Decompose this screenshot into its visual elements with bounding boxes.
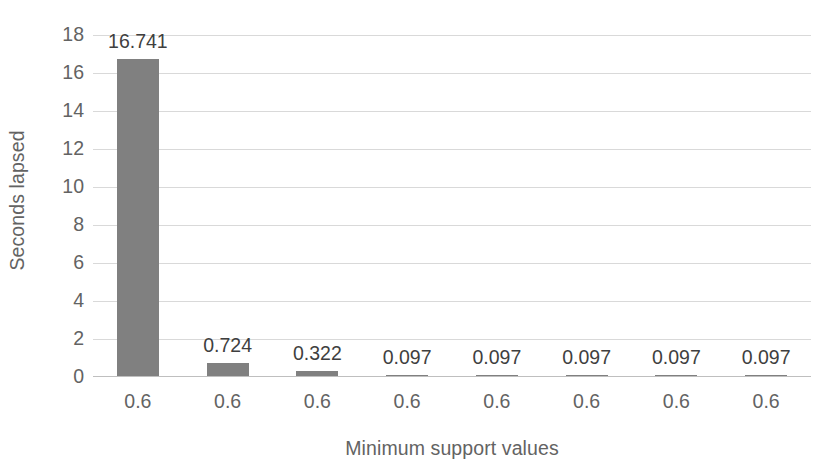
y-axis-title: Seconds lapsed <box>0 0 34 400</box>
gridline <box>93 301 811 302</box>
bar-value-label: 0.097 <box>562 347 611 367</box>
bar-value-label: 0.097 <box>652 347 701 367</box>
x-axis-line <box>93 376 811 377</box>
x-axis-tick-label: 0.6 <box>124 392 151 412</box>
gridline <box>93 187 811 188</box>
y-axis-tick-label: 18 <box>34 25 84 45</box>
bar-value-label: 0.322 <box>293 343 342 363</box>
y-axis-tick-label: 8 <box>34 215 84 235</box>
x-axis-tick-label: 0.6 <box>304 392 331 412</box>
gridline <box>93 73 811 74</box>
x-axis-tick-label: 0.6 <box>663 392 690 412</box>
bar-value-label: 16.741 <box>108 31 168 51</box>
x-axis-tick-label: 0.6 <box>573 392 600 412</box>
gridline <box>93 225 811 226</box>
x-axis-tick-label: 0.6 <box>214 392 241 412</box>
bar-value-label: 0.724 <box>203 336 252 356</box>
x-axis-title: Minimum support values <box>93 437 811 460</box>
gridline <box>93 149 811 150</box>
bar <box>117 59 159 377</box>
plot-area <box>93 35 811 377</box>
gridline <box>93 339 811 340</box>
bar-value-label: 0.097 <box>383 347 432 367</box>
bar-value-label: 0.097 <box>472 347 521 367</box>
x-axis-tick-label: 0.6 <box>753 392 780 412</box>
bar <box>207 363 249 377</box>
y-axis-title-label: Seconds lapsed <box>6 130 29 270</box>
gridline <box>93 35 811 36</box>
y-axis-tick-label: 10 <box>34 177 84 197</box>
y-axis-tick-label: 6 <box>34 253 84 273</box>
y-axis-tick-label: 16 <box>34 63 84 83</box>
gridline <box>93 263 811 264</box>
gridline <box>93 111 811 112</box>
bar-value-label: 0.097 <box>742 347 791 367</box>
y-axis-tick-label: 0 <box>34 367 84 387</box>
y-axis-tick-label: 12 <box>34 139 84 159</box>
x-axis-tick-label: 0.6 <box>483 392 510 412</box>
x-axis-tick-label: 0.6 <box>394 392 421 412</box>
y-axis-tick-label: 4 <box>34 291 84 311</box>
y-axis-tick-label: 2 <box>34 329 84 349</box>
y-axis-tick-label: 14 <box>34 101 84 121</box>
bar-chart: Seconds lapsed 181614121086420 16.7410.7… <box>0 0 833 476</box>
